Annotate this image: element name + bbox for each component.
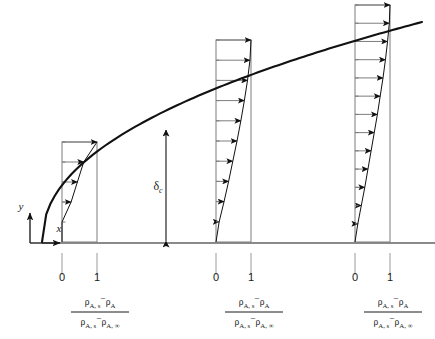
formula-label-1: ρA, s−ρAρA, s−ρA, ∞ [71, 294, 129, 328]
scale-label-zero-profile-2: 0 [213, 271, 219, 283]
scale-label-one-profile-3: 1 [387, 271, 393, 283]
x-axis-label: x [56, 222, 62, 234]
coordinate-axes: y x [18, 200, 62, 243]
formula-numerator-1: ρA, s−ρA [85, 294, 116, 308]
profile-2-group [216, 40, 251, 242]
profile-3-curve [355, 5, 390, 242]
y-axis-label: y [18, 200, 24, 212]
scale-number-labels-group: 010101 [59, 271, 393, 283]
concentration-boundary-layer-figure: y x δc 010101 ρA, s−ρAρA, s−ρA, ∞ρA, s−ρ… [0, 0, 435, 339]
scale-label-one-profile-2: 1 [248, 271, 254, 283]
formula-denominator-1: ρA, s−ρA, ∞ [81, 314, 120, 328]
formula-denominator-2: ρA, s−ρA, ∞ [235, 314, 274, 328]
axis-tick-group [62, 253, 390, 275]
formula-labels-group: ρA, s−ρAρA, s−ρA, ∞ρA, s−ρAρA, s−ρA, ∞ρA… [71, 294, 422, 328]
formula-numerator-2: ρA, s−ρA [239, 294, 270, 308]
scale-label-one-profile-1: 1 [94, 271, 100, 283]
profile-3-group [355, 5, 390, 242]
formula-denominator-3: ρA, s−ρA, ∞ [374, 314, 413, 328]
scale-label-zero-profile-1: 0 [59, 271, 65, 283]
scale-label-zero-profile-3: 0 [352, 271, 358, 283]
velocity-profiles-group [62, 5, 390, 242]
profile-3-box [355, 5, 390, 242]
formula-label-3: ρA, s−ρAρA, s−ρA, ∞ [364, 294, 422, 328]
formula-numerator-3: ρA, s−ρA [378, 294, 409, 308]
formula-label-2: ρA, s−ρAρA, s−ρA, ∞ [225, 294, 283, 328]
delta-c-label: δc [153, 179, 163, 195]
boundary-layer-thickness-curve [42, 22, 422, 242]
delta-c-dimension: δc [153, 130, 166, 241]
delta-subscript: c [159, 186, 163, 195]
diagram-canvas: y x δc 010101 ρA, s−ρAρA, s−ρA, ∞ρA, s−ρ… [0, 0, 435, 339]
